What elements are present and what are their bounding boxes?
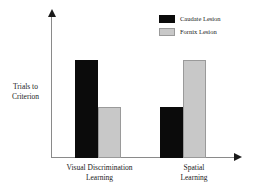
x-axis-category-label-visual-discrimination-learning: Visual Discrimination Learning (48, 163, 151, 183)
legend-label-caudate-lesion: Caudate Lesion (180, 15, 221, 23)
legend-item-fornix-lesion: Fornix Lesion (159, 27, 221, 37)
bar-spatial-learning-caudate-lesion (160, 107, 183, 158)
legend-item-caudate-lesion: Caudate Lesion (159, 14, 221, 24)
category-1-line-1: Spatial (148, 163, 240, 173)
x-axis-category-label-spatial-learning: Spatial Learning (148, 163, 240, 183)
chart-legend: Caudate Lesion Fornix Lesion (159, 14, 221, 40)
legend-swatch-fornix-lesion (159, 28, 175, 36)
category-0-line-2: Learning (48, 173, 151, 183)
y-axis-label-line-1: Trials to (2, 82, 49, 92)
legend-swatch-caudate-lesion (159, 15, 175, 23)
y-axis-line (51, 16, 52, 158)
y-axis-label-line-2: Criterion (2, 92, 49, 102)
y-axis-arrowhead-icon (48, 9, 56, 17)
category-0-line-1: Visual Discrimination (48, 163, 151, 173)
legend-label-fornix-lesion: Fornix Lesion (180, 28, 217, 36)
category-1-line-2: Learning (148, 173, 240, 183)
bar-spatial-learning-fornix-lesion (183, 60, 206, 158)
x-axis-arrowhead-icon (234, 153, 242, 161)
y-axis-label: Trials to Criterion (2, 82, 49, 102)
bar-chart: Trials to Criterion Visual Discriminatio… (0, 0, 253, 194)
bar-visual-discrimination-caudate-lesion (75, 60, 98, 158)
bar-visual-discrimination-fornix-lesion (98, 107, 121, 158)
